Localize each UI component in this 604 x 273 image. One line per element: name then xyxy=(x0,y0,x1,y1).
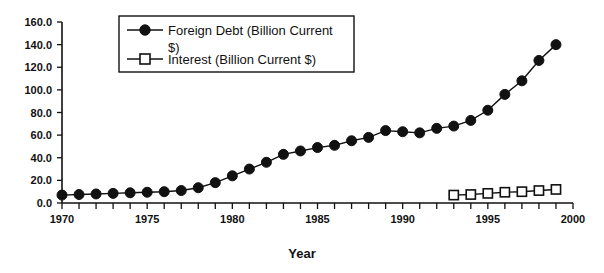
x-axis-title: Year xyxy=(288,246,315,261)
x-axis-tick-label: 1975 xyxy=(135,213,159,225)
y-axis-tick-label: 60.0 xyxy=(31,129,52,141)
data-point-foreign-debt xyxy=(74,190,84,200)
legend-marker-filled-circle-icon xyxy=(140,25,150,35)
data-point-interest xyxy=(534,186,543,195)
data-point-foreign-debt xyxy=(415,128,425,138)
data-point-foreign-debt xyxy=(57,190,67,200)
data-point-interest xyxy=(466,190,475,199)
data-point-foreign-debt xyxy=(313,143,323,153)
data-point-foreign-debt xyxy=(398,127,408,137)
data-point-interest xyxy=(551,185,560,194)
data-point-interest xyxy=(500,188,509,197)
data-point-foreign-debt xyxy=(534,55,544,65)
data-point-foreign-debt xyxy=(449,121,459,131)
y-axis-tick-label: 160.0 xyxy=(24,16,52,28)
data-point-foreign-debt xyxy=(210,178,220,188)
y-axis-tick-label-group: 0.020.040.060.080.0100.0120.0140.0160.0 xyxy=(24,16,52,209)
data-point-foreign-debt xyxy=(330,140,340,150)
x-axis-tick-label: 1970 xyxy=(50,213,74,225)
y-axis-tick-label: 100.0 xyxy=(24,84,52,96)
x-axis-tick-label: 2000 xyxy=(561,213,585,225)
data-point-foreign-debt xyxy=(500,89,510,99)
x-axis-tick-label: 1980 xyxy=(220,213,244,225)
chart-plot-area: 0.020.040.060.080.0100.0120.0140.0160.0 … xyxy=(0,0,604,273)
data-point-foreign-debt xyxy=(551,40,561,50)
data-point-foreign-debt xyxy=(193,183,203,193)
data-point-foreign-debt xyxy=(244,164,254,174)
legend-label-foreign-debt-line1: Foreign Debt (Billion Current xyxy=(168,23,333,38)
data-point-foreign-debt xyxy=(364,132,374,142)
data-point-foreign-debt xyxy=(176,186,186,196)
legend-marker-open-square-icon xyxy=(140,54,150,64)
data-point-foreign-debt xyxy=(466,115,476,125)
data-point-foreign-debt xyxy=(483,105,493,115)
data-point-foreign-debt xyxy=(261,157,271,167)
x-axis-tick-mark-group xyxy=(62,203,573,209)
x-axis-tick-label-group: 1970197519801985199019952000 xyxy=(50,213,585,225)
data-point-foreign-debt xyxy=(142,187,152,197)
x-axis-tick-label: 1995 xyxy=(476,213,500,225)
y-axis-tick-label: 140.0 xyxy=(24,39,52,51)
data-point-foreign-debt xyxy=(125,188,135,198)
y-axis-tick-label: 120.0 xyxy=(24,61,52,73)
chart-figure: 0.020.040.060.080.0100.0120.0140.0160.0 … xyxy=(0,0,604,273)
data-point-foreign-debt xyxy=(91,189,101,199)
y-axis-tick-label: 40.0 xyxy=(31,152,52,164)
data-point-foreign-debt xyxy=(432,123,442,133)
x-axis-tick-label: 1985 xyxy=(305,213,329,225)
data-point-foreign-debt xyxy=(347,136,357,146)
data-point-foreign-debt xyxy=(227,171,237,181)
data-point-foreign-debt xyxy=(517,76,527,86)
data-point-interest xyxy=(517,187,526,196)
data-point-foreign-debt xyxy=(295,146,305,156)
chart-legend: Foreign Debt (Billion Current $) Interes… xyxy=(119,16,354,72)
data-point-foreign-debt xyxy=(381,126,391,136)
x-axis-tick-label: 1990 xyxy=(390,213,414,225)
data-point-foreign-debt xyxy=(278,149,288,159)
y-axis-tick-label: 0.0 xyxy=(37,197,52,209)
y-axis-tick-label: 80.0 xyxy=(31,107,52,119)
data-point-foreign-debt xyxy=(159,187,169,197)
legend-label-interest: Interest (Billion Current $) xyxy=(168,52,316,67)
data-point-interest xyxy=(449,190,458,199)
data-point-foreign-debt xyxy=(108,188,118,198)
y-axis-tick-label: 20.0 xyxy=(31,174,52,186)
data-point-interest xyxy=(483,189,492,198)
